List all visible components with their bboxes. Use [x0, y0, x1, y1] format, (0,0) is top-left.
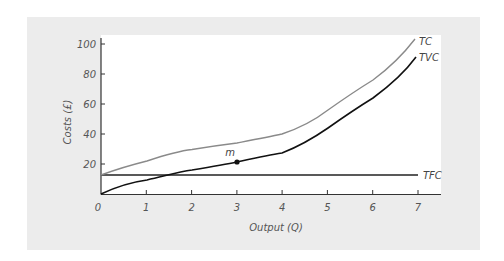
x-tick-label-1: 1 [143, 202, 149, 213]
y-tick-label-20: 20 [83, 159, 96, 170]
plot-area [101, 35, 441, 194]
y-tick-label-60: 60 [83, 99, 96, 110]
tvc-label: TVC [419, 52, 439, 63]
point-m-marker [234, 159, 239, 164]
cost-curves-chart: 100 80 60 40 20 0 1 2 3 4 5 6 7 Output (… [0, 0, 504, 261]
x-axis-title: Output (Q) [249, 222, 303, 233]
point-m-label: m [225, 147, 235, 158]
y-axis-title: Costs (£) [62, 100, 73, 145]
x-tick-label-5: 5 [324, 202, 330, 213]
x-tick-label-4: 4 [279, 202, 285, 213]
y-tick-label-100: 100 [77, 39, 96, 50]
x-tick-label-2: 2 [188, 202, 194, 213]
x-tick-label-7: 7 [415, 202, 422, 213]
y-tick-label-40: 40 [83, 129, 96, 140]
tfc-label: TFC [423, 170, 442, 181]
x-tick-label-3: 3 [234, 202, 240, 213]
x-tick-label-6: 6 [370, 202, 376, 213]
y-tick-label-80: 80 [83, 69, 96, 80]
tc-label: TC [419, 36, 432, 47]
x-tick-label-0: 0 [95, 202, 101, 213]
